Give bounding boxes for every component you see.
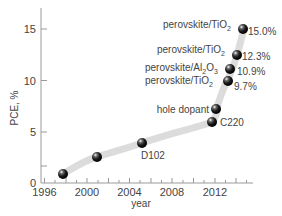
y-axis: 15 10 5 0 PCE, % xyxy=(9,8,47,189)
subscript: 2 xyxy=(227,25,231,32)
label-d102: D102 xyxy=(141,150,165,161)
label-text: perovskite/TiO xyxy=(157,44,221,55)
data-point-hole-dopant xyxy=(211,104,221,114)
x-tick-2012: 2012 xyxy=(203,186,227,198)
label-text: perovskite/Al xyxy=(145,62,202,73)
label-text: perovskite/TiO xyxy=(163,19,227,30)
x-axis: 1996 2000 2004 2008 2012 year xyxy=(32,178,253,209)
x-axis-title: year xyxy=(131,198,151,209)
data-point-12-3 xyxy=(232,50,242,60)
subscript: 2 xyxy=(209,81,213,88)
label-text: perovskite/TiO xyxy=(145,75,209,86)
x-tick-2004: 2004 xyxy=(117,186,141,198)
y-tick-15: 15 xyxy=(24,23,36,35)
x-tick-1996: 1996 xyxy=(32,186,56,198)
data-point-1997 xyxy=(58,169,68,179)
label-c220: C220 xyxy=(220,117,244,128)
y-tick-5: 5 xyxy=(30,126,36,138)
subscript: 2 xyxy=(221,50,225,57)
data-point-c220 xyxy=(207,117,217,127)
label-perovskite-tio2-12-3: perovskite/TiO2 xyxy=(157,44,225,57)
value-9-7: 9.7% xyxy=(234,81,257,92)
label-perovskite-tio2-9-7: perovskite/TiO2 xyxy=(145,75,213,88)
data-point-15-0 xyxy=(238,24,248,34)
label-perovskite-al2o3: perovskite/Al2O3 xyxy=(145,62,218,75)
x-tick-2008: 2008 xyxy=(160,186,184,198)
value-10-9: 10.9% xyxy=(237,66,265,77)
pce-chart: 15 10 5 0 PCE, % xyxy=(0,0,282,216)
data-point-d102 xyxy=(137,138,147,148)
y-tick-10: 10 xyxy=(24,75,36,87)
y-axis-title: PCE, % xyxy=(9,90,20,125)
label-hole-dopant: hole dopant xyxy=(157,104,209,115)
data-point-2001 xyxy=(92,152,102,162)
label-perovskite-tio2-15-0: perovskite/TiO2 xyxy=(163,19,231,32)
value-12-3: 12.3% xyxy=(242,51,270,62)
value-15-0: 15.0% xyxy=(248,26,276,37)
subscript: 3 xyxy=(214,68,218,75)
data-point-10-9 xyxy=(225,64,235,74)
data-point-9-7 xyxy=(223,76,233,86)
x-tick-2000: 2000 xyxy=(75,186,99,198)
